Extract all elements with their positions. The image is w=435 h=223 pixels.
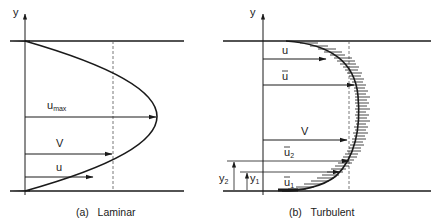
velocity-profile-figure: y umax V u (a) Laminar y xyxy=(0,0,435,223)
turbulent-ubar2-label: u2 xyxy=(284,146,294,159)
turbulent-caption: (b) Turbulent xyxy=(289,206,354,218)
laminar-y-axis-label: y xyxy=(13,6,19,18)
turbulent-mean-profile xyxy=(282,41,359,191)
laminar-u-label: u xyxy=(56,161,62,173)
turbulent-V-label: V xyxy=(301,125,309,137)
svg-text:u2: u2 xyxy=(284,146,294,159)
turbulent-ubar1-label: u1 xyxy=(284,176,294,189)
laminar-parabolic-profile xyxy=(25,41,157,191)
svg-text:u1: u1 xyxy=(284,176,294,189)
turbulent-y1-label: y1 xyxy=(250,172,260,185)
turbulent-y-axis-label: y xyxy=(250,6,256,18)
laminar-panel: y umax V u (a) Laminar xyxy=(10,6,184,218)
turbulent-fluctuation-hatching xyxy=(288,43,370,189)
turbulent-y2-label: y2 xyxy=(219,172,229,185)
svg-text:u: u xyxy=(282,70,288,82)
turbulent-ubar-label: u xyxy=(282,70,288,82)
laminar-V-label: V xyxy=(56,137,64,149)
turbulent-wall-contact-bottom xyxy=(278,189,298,192)
laminar-umax-label: umax xyxy=(47,99,67,112)
turbulent-u-label: u xyxy=(282,44,288,56)
laminar-caption: (a) Laminar xyxy=(76,206,136,218)
turbulent-panel: y xyxy=(219,6,431,218)
